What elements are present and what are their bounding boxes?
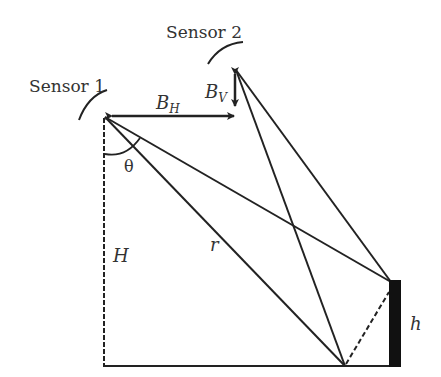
bh-label: BH	[155, 92, 180, 116]
h-label: h	[410, 313, 422, 334]
sensor1-ray-ground	[105, 117, 345, 366]
reflection-dashed-line	[346, 292, 389, 364]
r-label: r	[210, 234, 220, 255]
H-label: H	[112, 245, 129, 266]
sensor1-ray-top	[105, 117, 391, 282]
sensor2-ray-top	[236, 70, 391, 282]
interferometry-geometry-diagram: Sensor 1 Sensor 2 BH BV θ H r h	[0, 0, 441, 377]
sensor2-ray-ground	[236, 70, 345, 366]
bv-label: BV	[204, 81, 228, 105]
sensor2-antenna-arc	[208, 42, 243, 64]
theta-label: θ	[124, 157, 134, 176]
sensor2-label: Sensor 2	[166, 22, 242, 42]
theta-angle-arc	[105, 138, 140, 155]
target-object	[389, 280, 401, 367]
sensor1-label: Sensor 1	[29, 76, 105, 96]
